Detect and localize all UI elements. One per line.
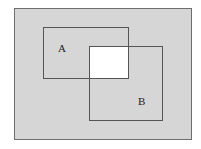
set-a-label: A: [58, 43, 66, 54]
intersection-region: [90, 47, 128, 78]
set-b-label: B: [138, 96, 145, 107]
